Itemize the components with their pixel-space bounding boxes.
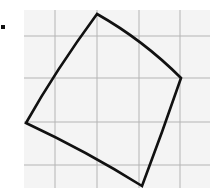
quadrilateral-figure (0, 0, 218, 196)
grid (24, 10, 210, 188)
